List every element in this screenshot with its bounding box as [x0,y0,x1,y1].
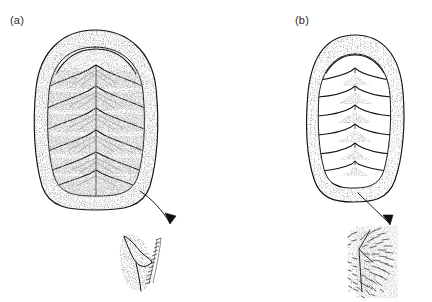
chiton-b [300,28,412,298]
detail-arrow-b-head [383,215,393,225]
valves-a [44,49,148,203]
inset-b-stipple-field [356,226,398,298]
girdle-margin-detail-b [344,226,398,298]
figure-artwork [0,0,432,302]
chiton-a [28,24,176,296]
figure-container: (a) (b) [0,0,432,302]
girdle-margin-detail-a [112,226,164,296]
